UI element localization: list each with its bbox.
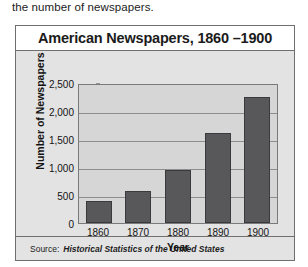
bar-series [79, 85, 277, 223]
source-note: Source: Historical Statistics of the Uni… [16, 236, 294, 260]
chart-title-band: American Newspapers, 1860 –1900 [16, 26, 294, 51]
y-tick-label: 0 [68, 219, 74, 230]
chart-figure: American Newspapers, 1860 –1900 Number o… [15, 25, 295, 261]
y-tick-label: 2,500 [49, 79, 74, 90]
bar-1880 [165, 170, 191, 223]
source-title: Historical Statistics of the United Stat… [63, 244, 224, 254]
bar-1890 [205, 133, 231, 223]
bar-1860 [86, 201, 112, 223]
y-tick-label: 500 [57, 191, 74, 202]
chart-title: American Newspapers, 1860 –1900 [38, 30, 272, 46]
y-tick-label: 2,000 [49, 107, 74, 118]
y-tick-label: 1,000 [49, 163, 74, 174]
bar-1900 [244, 97, 270, 223]
chart-region: Number of Newspapers 05001,0001,5002,000… [16, 51, 294, 262]
bar-1870 [125, 191, 151, 223]
y-tick-label: 1,500 [49, 135, 74, 146]
plot-area [78, 84, 278, 224]
page-caption: the number of newspapers. [12, 1, 154, 13]
source-label: Source: [30, 244, 59, 254]
y-axis-ticks: 05001,0001,5002,0002,500 [38, 84, 74, 224]
